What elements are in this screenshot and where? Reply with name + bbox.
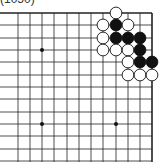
black-stone bbox=[134, 44, 146, 56]
white-stone bbox=[122, 44, 134, 56]
white-stone bbox=[110, 7, 122, 19]
white-stone bbox=[146, 69, 158, 81]
hoshi-point bbox=[114, 122, 118, 126]
white-stone bbox=[110, 44, 122, 56]
black-stone bbox=[110, 19, 122, 31]
white-stone bbox=[97, 19, 109, 31]
black-stone bbox=[110, 32, 122, 44]
white-stone bbox=[97, 44, 109, 56]
white-stone bbox=[122, 19, 134, 31]
go-board bbox=[0, 0, 164, 162]
black-stone bbox=[134, 56, 146, 68]
black-stone bbox=[146, 56, 158, 68]
black-stone bbox=[134, 32, 146, 44]
white-stone bbox=[97, 32, 109, 44]
black-stone bbox=[122, 32, 134, 44]
white-stone bbox=[122, 69, 134, 81]
white-stone bbox=[134, 69, 146, 81]
white-stone bbox=[122, 56, 134, 68]
hoshi-point bbox=[40, 122, 44, 126]
hoshi-point bbox=[40, 48, 44, 52]
